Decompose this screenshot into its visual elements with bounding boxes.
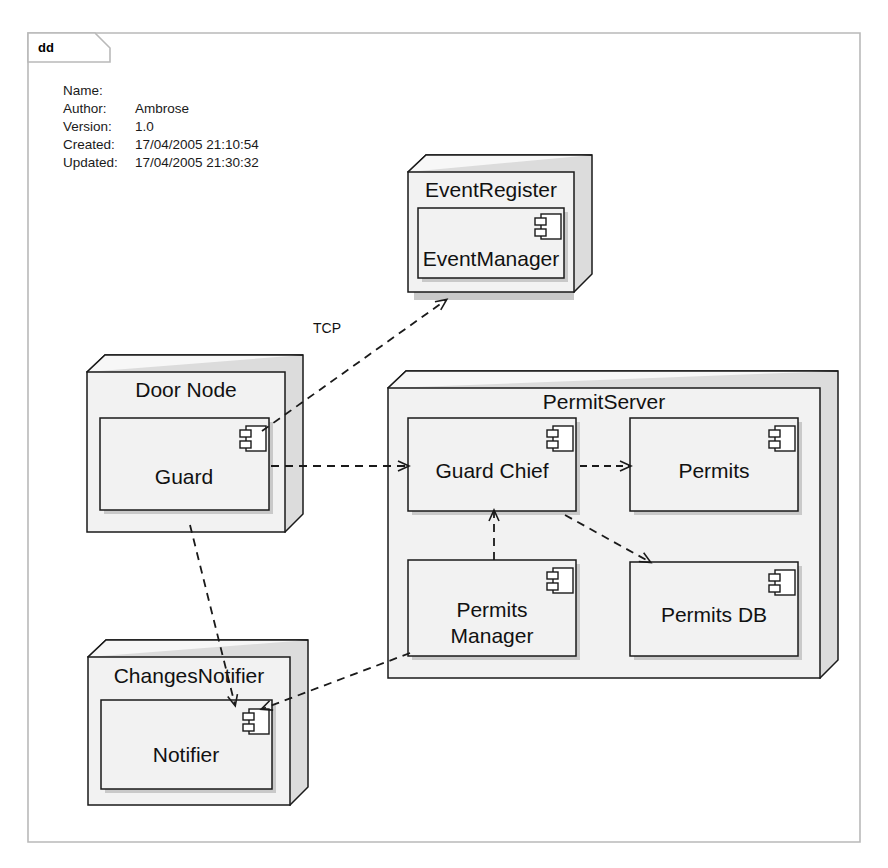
component-guard-label: Guard [155,465,213,488]
metadata-label-updated: Updated: [63,155,118,170]
component-guardchief[interactable]: Guard Chief [408,418,580,515]
metadata-label-name: Name: [63,83,103,98]
node-permitserver-label: PermitServer [543,390,666,413]
component-permitsmanager-label: Permits [456,598,527,621]
metadata-value-author: Ambrose [135,101,189,116]
uml-deployment-diagram: dd Name: Author: Ambrose Version: 1.0 Cr… [0,0,888,868]
node-changesnotifier[interactable]: ChangesNotifier Notifier [88,640,308,805]
node-eventregister[interactable]: EventRegister EventManager [408,155,592,300]
metadata-value-updated: 17/04/2005 21:30:32 [135,155,259,170]
component-eventmanager-label: EventManager [423,247,560,270]
node-doornode-label: Door Node [135,378,237,401]
metadata-value-version: 1.0 [135,119,154,134]
connection-label-tcp: TCP [313,320,341,336]
diagram-canvas: dd Name: Author: Ambrose Version: 1.0 Cr… [0,0,888,868]
component-permitsmanager[interactable]: Permits Manager [408,560,580,660]
metadata-label-created: Created: [63,137,115,152]
component-permitsdb[interactable]: Permits DB [630,562,802,660]
component-permits-label: Permits [678,459,749,482]
node-permitserver[interactable]: PermitServer Guard Chief Permits [388,371,838,678]
component-eventmanager[interactable]: EventManager [418,208,568,282]
frame-tab-label: dd [38,40,54,55]
component-guardchief-label: Guard Chief [435,459,548,482]
component-permitsmanager-label-line2: Manager [451,624,534,647]
component-permits[interactable]: Permits [630,418,802,515]
metadata-value-created: 17/04/2005 21:10:54 [135,137,259,152]
metadata-label-version: Version: [63,119,112,134]
component-guard[interactable]: Guard [100,418,273,514]
node-eventregister-label: EventRegister [425,178,557,201]
component-permitsdb-label: Permits DB [661,603,767,626]
metadata-label-author: Author: [63,101,107,116]
node-changesnotifier-label: ChangesNotifier [114,664,265,687]
component-notifier[interactable]: Notifier [101,700,276,793]
component-notifier-label: Notifier [153,743,220,766]
node-doornode[interactable]: Door Node Guard [87,355,303,532]
